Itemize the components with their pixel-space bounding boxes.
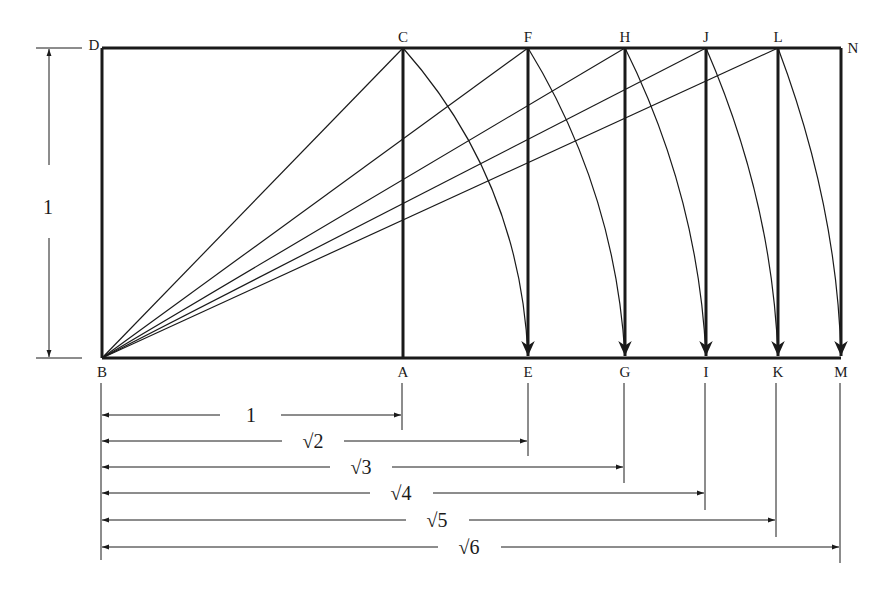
diagonal-BC — [102, 48, 403, 358]
diagonal-BH — [102, 48, 625, 358]
height-label: 1 — [43, 196, 53, 218]
point-label-F: F — [524, 29, 532, 45]
point-label-J: J — [703, 29, 709, 45]
dim-label-sqrt4: √4 — [391, 482, 412, 504]
dim-label-sqrt2: √2 — [303, 430, 324, 452]
point-label-E: E — [523, 364, 532, 380]
point-label-L: L — [773, 29, 782, 45]
arc-FG — [528, 48, 625, 356]
arc-JK — [706, 48, 778, 356]
dim-label-sqrt5: √5 — [427, 509, 448, 531]
point-label-G: G — [620, 364, 631, 380]
arc-HI — [625, 48, 706, 356]
point-label-N: N — [848, 40, 859, 56]
dim-label-1: 1 — [246, 404, 256, 426]
point-label-K: K — [773, 364, 784, 380]
point-label-B: B — [97, 364, 107, 380]
outer-rectangle — [102, 48, 841, 358]
dim-label-sqrt3: √3 — [351, 456, 372, 478]
top-point-labels: D C F H J L N — [89, 29, 859, 56]
dimension-lines — [102, 415, 839, 547]
point-label-D: D — [89, 37, 100, 53]
dimension-labels: 1 √2 √3 √4 √5 √6 — [246, 404, 479, 558]
arcs — [403, 48, 841, 356]
bottom-point-labels: B A E G I K M — [97, 364, 848, 380]
point-label-A: A — [398, 364, 409, 380]
point-label-H: H — [620, 29, 631, 45]
point-label-C: C — [398, 29, 408, 45]
point-label-I: I — [704, 364, 709, 380]
dim-label-sqrt6: √6 — [459, 536, 480, 558]
root-rectangles-diagram: 1 D C F H J L N — [0, 0, 891, 594]
point-label-M: M — [834, 364, 847, 380]
diagonal-BF — [102, 48, 528, 358]
arc-LM — [778, 48, 841, 356]
